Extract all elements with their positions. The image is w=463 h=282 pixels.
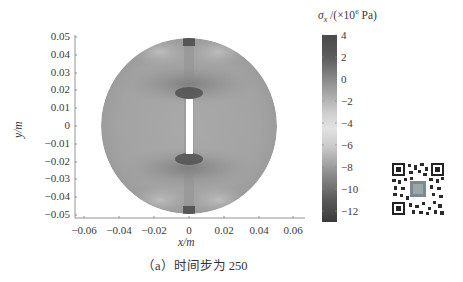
y-tick-label: 0.01	[30, 102, 70, 113]
y-tick-label: 0	[30, 120, 70, 131]
y-tick-label: 0.04	[30, 49, 70, 60]
colorbar-tick-label: 0	[341, 74, 347, 85]
colorbar-tick-label: −4	[341, 118, 353, 129]
x-tick-label: −0.04	[101, 225, 137, 236]
y-tick-label: 0.02	[30, 84, 70, 95]
crack-slit	[186, 99, 193, 154]
colorbar	[322, 35, 337, 222]
y-tick-label: −0.01	[30, 138, 70, 149]
x-tick-label: −0.02	[136, 225, 172, 236]
colorbar-tick-label: 4	[341, 30, 347, 41]
y-tick-label: −0.04	[30, 191, 70, 202]
qr-code	[392, 163, 444, 215]
x-tick-label: 0.02	[206, 225, 242, 236]
y-tick-label: −0.03	[30, 173, 70, 184]
x-tick-label: 0.04	[241, 225, 277, 236]
colorbar-tick-label: −10	[341, 184, 358, 195]
y-tick-label: −0.05	[30, 209, 70, 220]
colorbar-tick-label: −8	[341, 162, 353, 173]
colorbar-unit-prefix: /(×10	[327, 9, 355, 21]
y-tick-label: 0.05	[30, 31, 70, 42]
colorbar-title: σx /(×106 Pa)	[318, 8, 377, 24]
colorbar-tick-label: −2	[341, 96, 353, 107]
y-tick-label: −0.02	[30, 156, 70, 167]
x-axis-title: x/m	[178, 236, 195, 248]
y-tick-label: 0.03	[30, 67, 70, 78]
colorbar-tick-label: 2	[341, 52, 347, 63]
y-axis-title: y/m	[12, 121, 24, 138]
x-tick-label: −0.06	[66, 225, 102, 236]
x-tick-label: 0	[171, 225, 207, 236]
colorbar-unit: Pa)	[359, 9, 377, 21]
figure-caption: （a）时间步为 250	[142, 255, 247, 274]
colorbar-tick-label: −6	[341, 140, 353, 151]
x-tick-label: 0.06	[275, 225, 311, 236]
colorbar-tick-label: −12	[341, 206, 358, 217]
